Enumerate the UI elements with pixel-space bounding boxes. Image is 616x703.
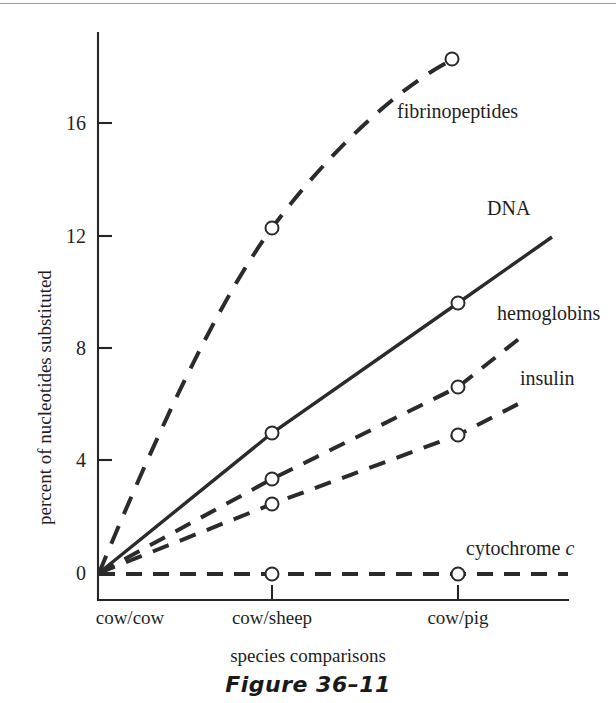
y-tick-label-8: 8 (52, 337, 86, 360)
x-axis-title: species comparisons (230, 645, 386, 667)
y-tick-group (98, 123, 112, 573)
fibrinopeptides-marker-cow-pig (446, 53, 459, 66)
series-dna (99, 237, 552, 573)
series-insulin (99, 403, 520, 573)
insulin-marker-cow-sheep (266, 498, 279, 511)
insulin-marker-cow-pig (452, 429, 465, 442)
cytochrome-c-marker-cow-sheep (266, 568, 279, 581)
dna-line (99, 237, 552, 573)
series-cytochrome-c (99, 568, 568, 581)
dna-marker-cow-pig (452, 297, 465, 310)
figure-root: 0 4 8 12 16 cow/cow cow/sheep cow/pig pe… (0, 0, 616, 703)
series-fibrinopeptides (99, 53, 459, 574)
hemoglobins-marker-cow-sheep (266, 473, 279, 486)
x-category-label-cow-pig: cow/pig (427, 607, 488, 629)
series-label-insulin: insulin (520, 367, 574, 390)
y-axis-title: percent of nucleotides substituted (34, 270, 56, 525)
y-tick-label-4: 4 (52, 449, 86, 472)
series-label-fibrinopeptides: fibrinopeptides (397, 100, 518, 123)
series-label-dna: DNA (487, 197, 530, 220)
series-label-cytochrome-c: cytochrome c (466, 537, 574, 560)
chart-canvas (0, 0, 616, 703)
y-tick-label-16: 16 (44, 112, 86, 135)
y-tick-label-12: 12 (44, 225, 86, 248)
cytochrome-c-marker-cow-pig (452, 568, 465, 581)
figure-caption: Figure 36–11 (225, 672, 391, 697)
cytochrome-c-label-italic: c (565, 537, 574, 559)
series-hemoglobins (99, 338, 520, 573)
cytochrome-c-label-text: cytochrome (466, 537, 565, 559)
fibrinopeptides-marker-cow-sheep (266, 222, 279, 235)
hemoglobins-line (99, 338, 520, 573)
y-tick-label-0: 0 (52, 562, 86, 585)
hemoglobins-marker-cow-pig (452, 381, 465, 394)
fibrinopeptides-line (99, 60, 452, 573)
x-category-label-cow-cow: cow/cow (96, 607, 165, 629)
dna-marker-cow-sheep (266, 427, 279, 440)
series-label-hemoglobins: hemoglobins (497, 302, 600, 325)
x-category-label-cow-sheep: cow/sheep (232, 607, 312, 629)
x-tick-group (272, 585, 458, 600)
